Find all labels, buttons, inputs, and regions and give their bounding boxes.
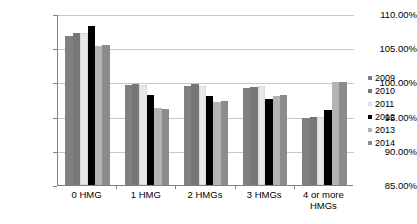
legend-label: 2011 bbox=[375, 99, 394, 109]
bar-2010-1-HMG bbox=[132, 84, 139, 185]
legend-swatch-icon bbox=[368, 89, 372, 93]
y-axis bbox=[0, 0, 53, 171]
bar-2009-4-or-more-HMGs bbox=[302, 118, 309, 185]
y-tick-mark bbox=[53, 118, 57, 119]
bar-2012-0-HMG bbox=[88, 26, 95, 185]
bar-2014-2-HMGs bbox=[221, 101, 228, 185]
y-tick-label: 85.00% bbox=[367, 181, 417, 191]
legend-item-2013[interactable]: 2013 bbox=[368, 125, 395, 136]
bar-2011-2-HMGs bbox=[199, 86, 206, 185]
bar-group bbox=[58, 14, 117, 185]
bar-2010-0-HMG bbox=[73, 33, 80, 185]
x-axis-label: 2 HMGs bbox=[175, 189, 234, 211]
bar-2013-1-HMG bbox=[154, 108, 161, 185]
bar-2013-2-HMGs bbox=[213, 102, 220, 185]
bar-2012-2-HMGs bbox=[206, 96, 213, 185]
legend-item-2011[interactable]: 2011 bbox=[368, 98, 395, 109]
x-axis-label: 4 or more HMGs bbox=[294, 189, 353, 211]
bar-2011-4-or-more-HMGs bbox=[317, 117, 324, 185]
bar-group bbox=[236, 14, 295, 185]
y-tick-mark bbox=[53, 49, 57, 50]
bar-2011-0-HMG bbox=[80, 33, 87, 185]
bar-2009-0-HMG bbox=[65, 36, 72, 185]
y-tick-mark bbox=[53, 152, 57, 153]
bar-2009-1-HMG bbox=[125, 85, 132, 185]
bar-chart: 0 HMG1 HMG2 HMGs3 HMGs4 or more HMGs 200… bbox=[0, 0, 417, 224]
x-axis-label: 1 HMG bbox=[116, 189, 175, 211]
bar-2009-2-HMGs bbox=[184, 86, 191, 185]
legend-swatch-icon bbox=[368, 128, 372, 132]
plot-area bbox=[57, 15, 353, 186]
x-axis-label: 0 HMG bbox=[57, 189, 116, 211]
y-tick-mark bbox=[53, 83, 57, 84]
legend-swatch-icon bbox=[368, 141, 372, 145]
y-tick-label: 90.00% bbox=[367, 147, 417, 157]
bar-2012-4-or-more-HMGs bbox=[324, 110, 331, 185]
bar-group bbox=[295, 14, 354, 185]
bar-2013-3-HMGs bbox=[273, 96, 280, 185]
bar-2014-1-HMG bbox=[162, 109, 169, 185]
y-tick-label: 100.00% bbox=[367, 78, 417, 88]
bar-groups bbox=[58, 14, 354, 185]
bar-2014-3-HMGs bbox=[280, 95, 287, 185]
bar-2009-3-HMGs bbox=[243, 88, 250, 185]
bar-2010-4-or-more-HMGs bbox=[310, 117, 317, 185]
y-tick-label: 110.00% bbox=[367, 10, 417, 20]
bar-group bbox=[117, 14, 176, 185]
y-tick-mark bbox=[53, 15, 57, 16]
bar-2012-3-HMGs bbox=[265, 99, 272, 185]
bar-group bbox=[176, 14, 235, 185]
x-axis-label: 3 HMGs bbox=[235, 189, 294, 211]
bar-2012-1-HMG bbox=[147, 95, 154, 185]
legend-swatch-icon bbox=[368, 102, 372, 106]
y-tick-mark bbox=[53, 186, 57, 187]
bar-2010-3-HMGs bbox=[250, 87, 257, 185]
bar-2013-0-HMG bbox=[95, 46, 102, 185]
bar-2011-1-HMG bbox=[139, 85, 146, 185]
y-tick-label: 95.00% bbox=[367, 113, 417, 123]
y-tick-label: 105.00% bbox=[367, 44, 417, 54]
x-axis-labels: 0 HMG1 HMG2 HMGs3 HMGs4 or more HMGs bbox=[57, 189, 353, 211]
bar-2010-2-HMGs bbox=[191, 84, 198, 185]
bar-2014-0-HMG bbox=[102, 45, 109, 185]
bar-2011-3-HMGs bbox=[258, 86, 265, 185]
legend-label: 2013 bbox=[375, 125, 395, 135]
bar-2014-4-or-more-HMGs bbox=[339, 82, 346, 185]
bar-2013-4-or-more-HMGs bbox=[332, 82, 339, 185]
